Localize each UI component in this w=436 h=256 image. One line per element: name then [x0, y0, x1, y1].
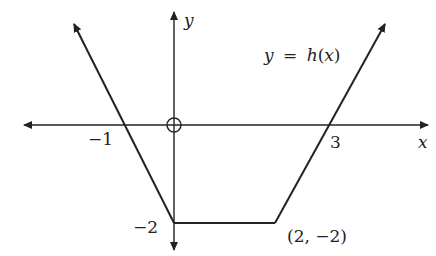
- function-label-y: y: [263, 45, 274, 65]
- function-label-close: ): [334, 45, 341, 65]
- function-label-eq: =: [283, 45, 297, 65]
- tick-label-x-3: 3: [330, 132, 341, 152]
- y-axis-label: y: [183, 10, 194, 30]
- function-label-open: (: [318, 45, 325, 65]
- tick-label-x-neg1: −1: [88, 129, 113, 149]
- function-label-x: x: [324, 45, 334, 65]
- graph-canvas: y x −1 3 −2 (2, −2) y = h(x): [0, 0, 436, 256]
- x-axis-label: x: [418, 132, 428, 152]
- function-label: y = h(x): [263, 45, 341, 65]
- tick-label-y-neg2: −2: [133, 217, 158, 237]
- function-label-h: h: [307, 45, 318, 65]
- point-label: (2, −2): [287, 226, 347, 246]
